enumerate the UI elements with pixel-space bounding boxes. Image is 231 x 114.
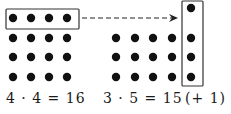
dot [63, 53, 71, 61]
dot [131, 53, 139, 61]
dot [131, 73, 139, 81]
dot [168, 34, 176, 42]
dot [187, 73, 195, 81]
dot [168, 53, 176, 61]
dot [27, 14, 35, 22]
dot [27, 34, 35, 42]
dot [187, 4, 195, 12]
dot [149, 73, 157, 81]
dot [149, 53, 157, 61]
dot [9, 14, 17, 22]
dot [27, 53, 35, 61]
right-dot-array [112, 4, 195, 81]
dot [9, 73, 17, 81]
dot [63, 34, 71, 42]
dot [27, 73, 35, 81]
dot [187, 53, 195, 61]
dot [149, 34, 157, 42]
left-dot-array [9, 14, 71, 81]
dot [9, 34, 17, 42]
dot [112, 73, 120, 81]
dot [45, 14, 53, 22]
dot [168, 73, 176, 81]
dot [131, 34, 139, 42]
remainder-equation: (+ 1) [185, 90, 226, 106]
dot [63, 14, 71, 22]
dot [187, 34, 195, 42]
dot [112, 34, 120, 42]
dot [45, 53, 53, 61]
dot [45, 73, 53, 81]
right-equation: 3 · 5 = 15 [103, 90, 183, 106]
dot [63, 73, 71, 81]
dot [112, 53, 120, 61]
dot [45, 34, 53, 42]
dot [9, 53, 17, 61]
left-equation: 4 · 4 = 16 [6, 90, 86, 106]
